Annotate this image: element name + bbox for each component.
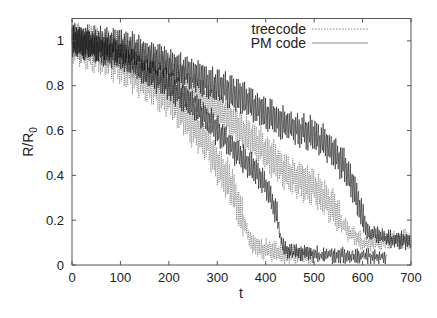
- y-axis-tick-labels: 00.20.40.60.81: [46, 33, 64, 272]
- y-tick-label: 1: [57, 33, 64, 48]
- x-axis-title: t: [239, 285, 243, 301]
- x-tick-label: 500: [303, 270, 325, 285]
- x-tick-label: 700: [400, 270, 422, 285]
- y-tick-label: 0.8: [46, 78, 64, 93]
- chart: 0100200300400500600700 00.20.40.60.81 t …: [0, 0, 437, 318]
- x-axis-tick-labels: 0100200300400500600700: [68, 270, 421, 285]
- x-tick-label: 300: [206, 270, 228, 285]
- y-axis-title-subscript: 0: [28, 127, 39, 133]
- x-tick-label: 400: [255, 270, 277, 285]
- x-tick-label: 600: [352, 270, 374, 285]
- y-axis-title-main: R/R: [20, 133, 36, 157]
- y-tick-label: 0.6: [46, 123, 64, 138]
- y-tick-label: 0: [57, 258, 64, 273]
- y-tick-label: 0.4: [46, 168, 64, 183]
- y-tick-label: 0.2: [46, 213, 64, 228]
- svg-text:R/R0: R/R0: [20, 127, 39, 157]
- x-tick-label: 100: [110, 270, 132, 285]
- legend-label-pm-code: PM code: [251, 35, 306, 51]
- x-tick-label: 0: [68, 270, 75, 285]
- series-line-treecode-late-collapse: [72, 23, 411, 252]
- x-tick-label: 200: [158, 270, 180, 285]
- legend: treecode PM code: [251, 21, 368, 51]
- y-axis-title: R/R0: [20, 127, 39, 157]
- data-series-layer: [72, 23, 411, 264]
